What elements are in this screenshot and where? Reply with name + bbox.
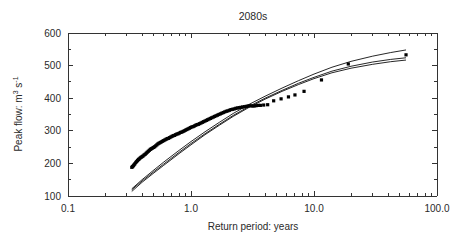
svg-text:Peak flow: m3 s-1: Peak flow: m3 s-1 — [12, 76, 24, 151]
y-tick-label: 300 — [44, 125, 61, 136]
data-point-marker — [320, 78, 323, 81]
x-tick-label: 0.1 — [61, 203, 75, 214]
fit-curve — [132, 58, 406, 190]
y-axis-label-main: Peak flow: m — [13, 94, 24, 151]
y-axis-label-mid: s — [13, 83, 24, 91]
data-point-marker — [279, 97, 282, 100]
data-point-marker — [293, 93, 296, 96]
fit-curves — [132, 50, 406, 191]
axis-tick-labels: 1002003004005006000.11.010.0100.0 — [44, 28, 450, 215]
data-points — [130, 53, 407, 169]
axis-ticks — [68, 33, 437, 196]
data-point-marker — [287, 95, 290, 98]
data-point-marker — [259, 104, 262, 107]
data-point-marker — [347, 62, 350, 65]
data-point-marker — [266, 103, 269, 106]
y-axis-label-sup-minus1: -1 — [12, 76, 19, 82]
y-tick-label: 400 — [44, 93, 61, 104]
data-point-marker — [302, 90, 305, 93]
chart-title: 2080s — [239, 10, 268, 22]
y-tick-label: 100 — [44, 191, 61, 202]
axes-frame — [68, 33, 437, 196]
y-tick-label: 200 — [44, 158, 61, 169]
y-tick-label: 500 — [44, 60, 61, 71]
figure: 1002003004005006000.11.010.0100.0 2080s … — [0, 0, 474, 244]
y-axis-label: Peak flow: m3 s-1 — [12, 76, 24, 151]
chart-canvas: 1002003004005006000.11.010.0100.0 2080s … — [0, 0, 474, 244]
data-point-marker — [262, 103, 265, 106]
fit-curve — [132, 60, 406, 191]
y-tick-label: 600 — [44, 28, 61, 39]
fit-curve — [132, 50, 406, 189]
x-tick-label: 1.0 — [184, 203, 198, 214]
x-tick-label: 10.0 — [304, 203, 324, 214]
x-axis-label: Return period: years — [208, 221, 299, 232]
data-point-marker — [272, 99, 275, 102]
x-tick-label: 100.0 — [424, 203, 449, 214]
data-point-marker — [404, 53, 407, 56]
